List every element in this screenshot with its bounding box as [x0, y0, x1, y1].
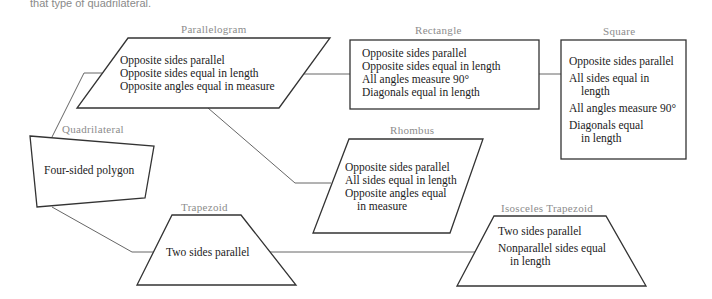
- rhombus-text: Opposite sides parallel All sides equal …: [345, 161, 457, 213]
- quadrilateral-text: Four-sided polygon: [44, 164, 134, 177]
- square-label: Square: [603, 25, 635, 37]
- quadrilateral-label: Quadrilateral: [62, 123, 124, 135]
- isosceles-trapezoid-label: Isosceles Trapezoid: [501, 202, 593, 214]
- parallelogram-text: Opposite sides parallel Opposite sides e…: [120, 54, 275, 93]
- parallelogram-label: Parallelogram: [181, 23, 247, 35]
- edge-parallelogram-rhombus: [208, 108, 331, 183]
- rhombus-label: Rhombus: [390, 124, 434, 136]
- isosceles-trapezoid-text: Two sides parallel Nonparallel sides equ…: [498, 225, 606, 268]
- trapezoid-label: Trapezoid: [181, 201, 228, 213]
- square-text: Opposite sides parallel All sides equal …: [569, 55, 676, 145]
- edge-quadrilateral-trapezoid: [52, 207, 154, 252]
- rectangle-text: Opposite sides parallel Opposite sides e…: [362, 47, 501, 99]
- trapezoid-text: Two sides parallel: [166, 246, 250, 259]
- rectangle-label: Rectangle: [415, 24, 462, 36]
